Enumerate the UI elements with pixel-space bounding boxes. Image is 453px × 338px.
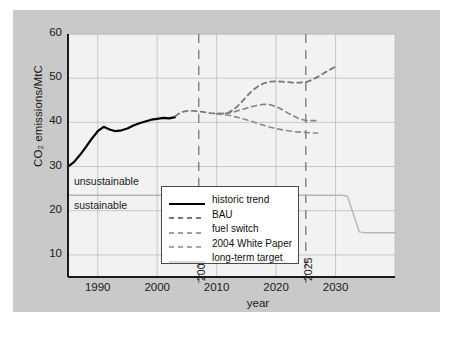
x-tick-2000: 2000 bbox=[134, 281, 180, 293]
x-tick-1990: 1990 bbox=[75, 281, 121, 293]
legend-item-fuel-switch: fuel switch bbox=[168, 221, 259, 236]
legend-label: BAU bbox=[212, 209, 233, 220]
legend-key-icon bbox=[168, 209, 206, 219]
y-tick-20: 20 bbox=[36, 203, 62, 215]
legend-key-icon bbox=[168, 195, 206, 205]
legend-key-icon bbox=[168, 238, 206, 248]
x-tick-2010: 2010 bbox=[194, 281, 240, 293]
x-axis-label: year bbox=[228, 297, 288, 309]
y-tick-10: 10 bbox=[36, 247, 62, 259]
legend-item-bau: BAU bbox=[168, 207, 233, 222]
y-tick-60: 60 bbox=[36, 26, 62, 38]
legend-label: historic trend bbox=[212, 194, 269, 205]
legend-label: 2004 White Paper bbox=[212, 238, 292, 249]
x-tick-2020: 2020 bbox=[253, 281, 299, 293]
y-tick-50: 50 bbox=[36, 70, 62, 82]
y-tick-30: 30 bbox=[36, 159, 62, 171]
legend-item-historic-trend: historic trend bbox=[168, 192, 269, 207]
legend-label: fuel switch bbox=[212, 223, 259, 234]
legend-label: long-term target bbox=[212, 252, 283, 263]
legend-item-2004-white-paper: 2004 White Paper bbox=[168, 236, 292, 251]
y-tick-40: 40 bbox=[36, 114, 62, 126]
annotation-unsustainable: unsustainable bbox=[74, 175, 139, 187]
chart-legend: historic trendBAUfuel switch2004 White P… bbox=[161, 186, 299, 264]
annotation-sustainable: sustainable bbox=[74, 199, 127, 211]
x-marker-label-2025: 2025 bbox=[302, 258, 314, 281]
legend-item-long-term-target: long-term target bbox=[168, 250, 283, 265]
x-tick-2030: 2030 bbox=[313, 281, 359, 293]
legend-key-icon bbox=[168, 253, 206, 263]
legend-key-icon bbox=[168, 224, 206, 234]
figure-root: CO₂ emissions/MtC 102030405060 199020002… bbox=[0, 0, 453, 338]
